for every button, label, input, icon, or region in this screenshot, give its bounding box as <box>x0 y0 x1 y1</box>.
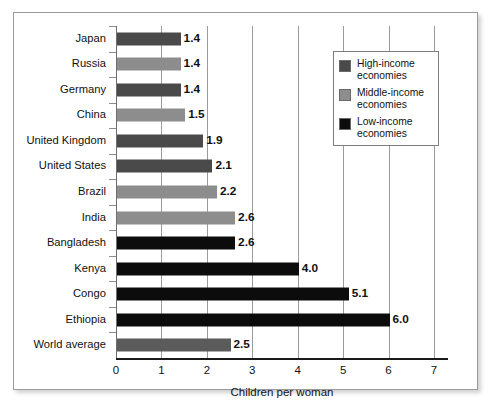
bar[interactable] <box>117 211 235 224</box>
bar-value-label: 2.1 <box>215 161 231 173</box>
y-axis-tick <box>109 307 116 308</box>
y-axis-tick <box>109 332 116 333</box>
bar-value-label: 1.4 <box>184 84 200 96</box>
bar-value-label: 2.6 <box>238 237 254 249</box>
category-label: United Kingdom <box>26 135 106 146</box>
bar[interactable] <box>117 339 231 352</box>
legend-label-line1: High-income <box>357 58 415 70</box>
bar[interactable] <box>117 288 349 301</box>
category-label: Congo <box>73 289 106 300</box>
bar-value-label: 5.1 <box>352 288 368 300</box>
legend-label-line1: Middle-income <box>357 87 424 99</box>
bar[interactable] <box>117 32 181 45</box>
bar-row: United States2.1 <box>116 154 443 180</box>
legend-label-line1: Low-income <box>357 116 413 128</box>
legend-label-line2: economies <box>357 70 415 82</box>
bar-value-label: 1.9 <box>206 135 222 147</box>
category-label: Ethiopia <box>66 314 106 325</box>
bar[interactable] <box>117 160 212 173</box>
y-axis-tick <box>109 230 116 231</box>
bar[interactable] <box>117 83 181 96</box>
bar-row: Brazil2.2 <box>116 179 443 205</box>
bar-value-label: 2.5 <box>234 339 250 351</box>
legend-label: Low-incomeeconomies <box>357 116 413 139</box>
x-axis-line <box>116 358 448 360</box>
bar[interactable] <box>117 262 299 275</box>
category-label: Kenya <box>74 263 106 274</box>
y-axis-tick <box>109 77 116 78</box>
bar-value-label: 2.2 <box>220 186 236 198</box>
y-axis-tick <box>109 154 116 155</box>
category-label: India <box>82 212 106 223</box>
legend-swatch-icon <box>339 60 351 72</box>
legend-label: Middle-incomeeconomies <box>357 87 424 110</box>
y-axis-tick <box>109 256 116 257</box>
category-label: Bangladesh <box>47 237 106 248</box>
bar-row: Congo5.1 <box>116 281 443 307</box>
bar-row: Japan1.4 <box>116 26 443 52</box>
bar-row: Ethiopia6.0 <box>116 307 443 333</box>
chart-figure: Japan1.4Russia1.4Germany1.4China1.5Unite… <box>13 12 478 390</box>
bar[interactable] <box>117 58 181 71</box>
category-label: Brazil <box>78 186 106 197</box>
bar-row: Kenya4.0 <box>116 256 443 282</box>
y-axis-tick <box>109 205 116 206</box>
bar[interactable] <box>117 134 203 147</box>
x-tick-label: 3 <box>249 365 255 377</box>
bar[interactable] <box>117 185 217 198</box>
y-axis-tick <box>109 128 116 129</box>
bar-value-label: 1.4 <box>184 58 200 70</box>
bar-value-label: 4.0 <box>302 263 318 275</box>
x-tick-label: 4 <box>294 365 300 377</box>
legend-item[interactable]: High-incomeeconomies <box>339 58 433 81</box>
category-label: World average <box>33 340 106 351</box>
bar[interactable] <box>117 237 235 250</box>
bar-row: Bangladesh2.6 <box>116 230 443 256</box>
y-axis-tick <box>109 281 116 282</box>
category-label: Germany <box>60 84 106 95</box>
y-axis-tick <box>109 103 116 104</box>
bar[interactable] <box>117 313 390 326</box>
bar-value-label: 2.6 <box>238 212 254 224</box>
legend-label-line2: economies <box>357 128 413 140</box>
bar[interactable] <box>117 109 185 122</box>
x-tick-label: 2 <box>204 365 210 377</box>
x-tick-label: 1 <box>158 365 164 377</box>
bar-value-label: 1.4 <box>184 33 200 45</box>
bar-value-label: 1.5 <box>188 109 204 121</box>
x-tick-label: 0 <box>113 365 119 377</box>
legend-item[interactable]: Middle-incomeeconomies <box>339 87 433 110</box>
x-tick-label: 7 <box>431 365 437 377</box>
y-axis-tick <box>109 52 116 53</box>
bar-value-label: 6.0 <box>393 314 409 326</box>
category-label: United States <box>39 161 106 172</box>
y-axis-tick <box>109 26 116 27</box>
category-label: China <box>77 110 106 121</box>
legend-item[interactable]: Low-incomeeconomies <box>339 116 433 139</box>
legend-label-line2: economies <box>357 99 424 111</box>
bar-row: India2.6 <box>116 205 443 231</box>
legend-swatch-icon <box>339 89 351 101</box>
category-label: Russia <box>72 59 106 70</box>
legend-swatch-icon <box>339 118 351 130</box>
y-axis-tick <box>109 179 116 180</box>
x-tick-label: 6 <box>385 365 391 377</box>
category-label: Japan <box>76 33 106 44</box>
x-tick-label: 5 <box>340 365 346 377</box>
legend-label: High-incomeeconomies <box>357 58 415 81</box>
x-axis-title: Children per woman <box>116 386 448 398</box>
chart-legend: High-incomeeconomiesMiddle-incomeeconomi… <box>333 51 439 146</box>
bar-row: World average2.5 <box>116 332 443 358</box>
